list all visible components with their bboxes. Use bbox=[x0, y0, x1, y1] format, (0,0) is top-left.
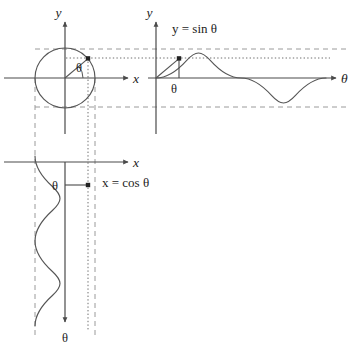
cosine-theta-tick-label: θ bbox=[52, 179, 58, 193]
sine-graph-panel: y θ θ y = sin θ bbox=[145, 5, 349, 134]
cosine-x-axis-label: x bbox=[132, 155, 139, 170]
figure-root: y x θ y θ θ y = sin θ bbox=[0, 0, 356, 350]
circle-angle-label: θ bbox=[76, 61, 82, 75]
sine-point-marker bbox=[177, 56, 181, 60]
figure-caption bbox=[0, 340, 356, 350]
circle-point-marker bbox=[86, 56, 90, 60]
cosine-graph-panel: x θ θ x = cos θ bbox=[4, 155, 149, 345]
unit-circle-panel: y x θ bbox=[4, 5, 139, 134]
cosine-point-marker bbox=[86, 183, 90, 187]
cosine-equation-label: x = cos θ bbox=[102, 175, 149, 190]
circle-y-axis-label: y bbox=[54, 5, 62, 20]
trigonometry-diagram: y x θ y θ θ y = sin θ bbox=[0, 0, 356, 350]
sine-theta-axis-label: θ bbox=[341, 71, 348, 86]
guide-lines bbox=[35, 49, 348, 336]
sine-theta-tick-label: θ bbox=[171, 82, 177, 96]
sine-y-axis-label: y bbox=[145, 5, 153, 20]
sine-equation-label: y = sin θ bbox=[172, 21, 217, 36]
circle-x-axis-label: x bbox=[132, 71, 139, 86]
